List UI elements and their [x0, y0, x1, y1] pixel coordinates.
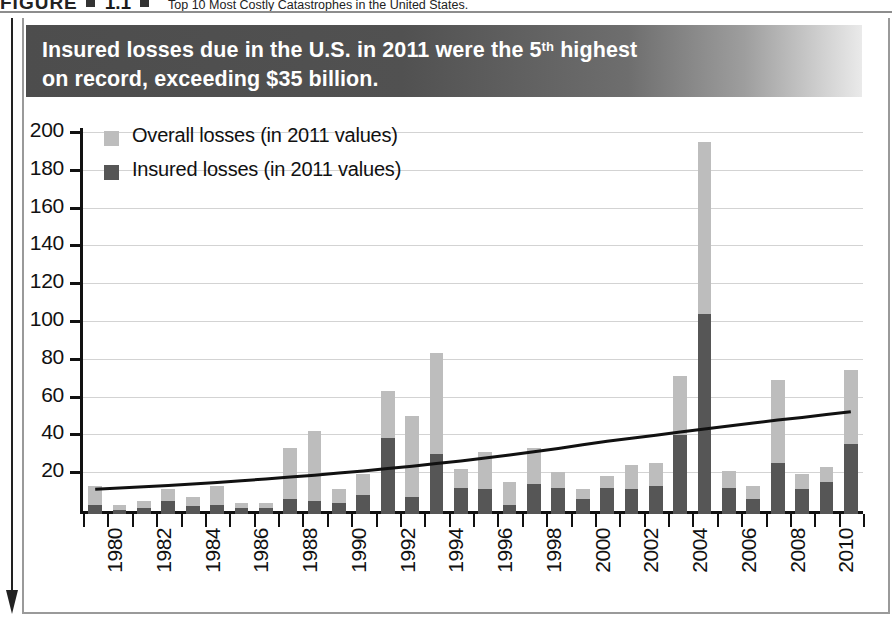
x-axis-labels: 1980198219841986198819901992199419961998…	[83, 528, 863, 608]
x-tick-mark	[181, 514, 183, 527]
x-tick-mark	[107, 514, 109, 527]
headline-text: Insured losses due in the U.S. in 2011 w…	[42, 32, 832, 94]
x-tick-label: 1990	[347, 528, 371, 573]
x-tick-mark	[132, 514, 134, 527]
x-tick-label: 1986	[249, 528, 273, 573]
x-tick-mark	[473, 514, 475, 527]
top-rule	[0, 11, 892, 13]
y-tick-label: 20	[20, 458, 64, 482]
y-tick-label: 80	[20, 345, 64, 369]
x-tick-label: 1982	[152, 528, 176, 573]
x-tick-label: 2002	[639, 528, 663, 573]
headline-line2: on record, exceeding $35 billion.	[42, 67, 379, 91]
x-tick-label: 1988	[298, 528, 322, 573]
x-tick-mark	[741, 514, 743, 527]
x-tick-label: 2010	[834, 528, 858, 573]
y-tick-label: 100	[20, 307, 64, 331]
left-arrow-icon	[6, 18, 18, 614]
x-tick-mark	[449, 514, 451, 527]
trend-line	[83, 112, 863, 514]
x-tick-label: 1996	[493, 528, 517, 573]
headline-line1-a: Insured losses due in the U.S. in 2011 w…	[42, 38, 542, 62]
x-tick-mark	[497, 514, 499, 527]
y-tick-label: 40	[20, 420, 64, 444]
x-tick-mark	[571, 514, 573, 527]
y-tick-label: 160	[20, 194, 64, 218]
x-tick-label: 1984	[201, 528, 225, 573]
x-tick-label: 2000	[591, 528, 615, 573]
x-tick-label: 1992	[396, 528, 420, 573]
x-tick-mark	[790, 514, 792, 527]
x-tick-label: 2006	[737, 528, 761, 573]
chart-plot-area: 20406080100120140160180200 Overall losse…	[28, 112, 864, 610]
y-tick-label: 60	[20, 383, 64, 407]
x-tick-mark	[839, 514, 841, 527]
x-tick-mark	[83, 514, 85, 527]
x-tick-mark	[278, 514, 280, 527]
x-tick-mark	[522, 514, 524, 527]
headline-banner: Insured losses due in the U.S. in 2011 w…	[26, 25, 862, 97]
figure-square-icon	[86, 0, 95, 7]
x-tick-mark	[692, 514, 694, 527]
x-tick-mark	[156, 514, 158, 527]
x-tick-mark	[351, 514, 353, 527]
x-tick-mark	[619, 514, 621, 527]
x-tick-mark	[717, 514, 719, 527]
x-tick-label: 2008	[786, 528, 810, 573]
x-tick-mark	[254, 514, 256, 527]
x-tick-mark	[766, 514, 768, 527]
figure-page: FIGURE 1.1 Top 10 Most Costly Catastroph…	[0, 0, 892, 622]
x-tick-mark	[400, 514, 402, 527]
x-tick-mark	[546, 514, 548, 527]
x-tick-mark	[863, 514, 865, 527]
x-tick-mark	[229, 514, 231, 527]
x-tick-label: 1998	[542, 528, 566, 573]
x-tick-mark	[302, 514, 304, 527]
x-tick-label: 1980	[103, 528, 127, 573]
x-axis-ticks	[83, 514, 863, 528]
y-tick-label: 120	[20, 269, 64, 293]
x-tick-mark	[644, 514, 646, 527]
headline-line1-b: highest	[554, 38, 637, 62]
figure-square-icon-2	[140, 0, 149, 7]
x-tick-mark	[205, 514, 207, 527]
x-tick-label: 2004	[688, 528, 712, 573]
x-tick-mark	[668, 514, 670, 527]
x-tick-mark	[376, 514, 378, 527]
headline-ordinal-suffix: th	[542, 39, 554, 54]
x-tick-mark	[595, 514, 597, 527]
x-tick-mark	[814, 514, 816, 527]
y-tick-label: 180	[20, 156, 64, 180]
trend-line-path	[95, 412, 851, 490]
x-tick-label: 1994	[444, 528, 468, 573]
x-tick-mark	[424, 514, 426, 527]
y-tick-label: 140	[20, 231, 64, 255]
y-tick-label: 200	[20, 118, 64, 142]
x-tick-mark	[327, 514, 329, 527]
